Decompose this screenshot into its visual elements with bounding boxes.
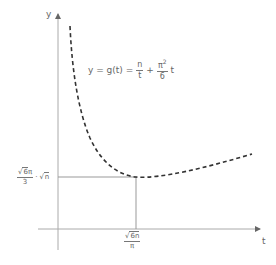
min-y-denominator: 3 — [23, 178, 27, 186]
term1-numerator: n — [136, 61, 143, 71]
min-x-denominator: π — [130, 242, 134, 250]
x-axis-label: t — [262, 237, 266, 246]
min-y-numerator: √6π — [17, 169, 33, 178]
min-y-n: n — [44, 172, 49, 181]
min-x-numerator: √6n — [124, 233, 140, 242]
curve-g — [70, 26, 252, 177]
formula-plus: + — [146, 66, 154, 75]
min-y-pi: π — [28, 168, 32, 176]
min-x-fraction: √6n π — [124, 233, 140, 250]
min-y-dot: · — [35, 174, 37, 181]
min-y-label: √6π 3 · √n — [17, 169, 49, 186]
formula-label: y = g(t) = n t + π2 6 t — [88, 59, 174, 81]
term2-exponent: 2 — [163, 58, 167, 65]
min-x-root: 6n — [129, 231, 139, 240]
term1-denominator: t — [138, 71, 141, 80]
formula-term1: n t — [136, 61, 143, 80]
formula-lhs: y = g(t) = — [88, 66, 133, 75]
formula-term2-var: t — [171, 66, 175, 75]
min-y-fraction: √6π 3 — [17, 169, 33, 186]
term2-denominator: 6 — [160, 72, 165, 81]
min-x-label: √6n π — [124, 233, 140, 250]
formula-term2: π2 6 — [157, 59, 168, 81]
function-plot — [0, 0, 276, 265]
y-axis-label: y — [46, 10, 51, 19]
min-y-sqrt-n: √n — [39, 174, 49, 181]
term2-numerator: π2 — [157, 59, 168, 72]
